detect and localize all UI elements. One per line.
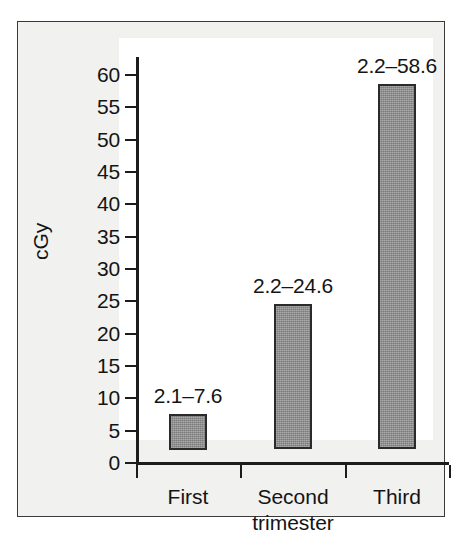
y-axis-title: cGy: [30, 223, 51, 260]
y-axis-tick-label: 0: [72, 452, 120, 473]
y-axis-tick-label: 45: [72, 161, 120, 182]
y-axis-tick-label: 30: [72, 258, 120, 279]
y-axis-tick: [125, 462, 137, 464]
y-axis-tick: [125, 268, 137, 270]
y-axis-tick-label: 5: [72, 420, 120, 441]
x-axis-tick: [136, 465, 138, 478]
y-axis-tick-label: 60: [72, 64, 120, 85]
figure-panel: 051015202530354045505560 cGy 2.1–7.62.2–…: [17, 21, 445, 517]
y-axis-tick-label: 55: [72, 96, 120, 117]
y-axis-tick: [125, 203, 137, 205]
x-axis-line: [136, 462, 449, 465]
y-axis-tick-label: 20: [72, 323, 120, 344]
y-axis-tick: [125, 365, 137, 367]
x-axis-tick: [345, 465, 347, 478]
y-axis-tick: [125, 430, 137, 432]
y-axis-tick-label: 10: [72, 387, 120, 408]
bar-value-label: 2.2–58.6: [337, 55, 457, 76]
y-axis-tick-label: 25: [72, 290, 120, 311]
y-axis-tick-label: 35: [72, 226, 120, 247]
x-axis-category-third: Third: [327, 484, 463, 510]
y-axis-tick: [125, 236, 137, 238]
category-sublabel-text: trimester: [223, 510, 363, 534]
y-axis-tick: [125, 333, 137, 335]
bar-second: [274, 304, 312, 449]
y-axis-tick-label: 40: [72, 193, 120, 214]
y-axis-tick: [125, 74, 137, 76]
y-axis-tick: [125, 171, 137, 173]
y-axis-tick: [125, 139, 137, 141]
figure: 051015202530354045505560 cGy 2.1–7.62.2–…: [0, 0, 463, 534]
category-label-text: Third: [327, 484, 463, 510]
bar-value-label: 2.1–7.6: [128, 385, 248, 406]
x-axis-tick: [449, 465, 451, 478]
bar-third: [378, 84, 416, 449]
x-axis-tick: [240, 465, 242, 478]
bar-value-label: 2.2–24.6: [233, 275, 353, 296]
bar-first: [169, 414, 207, 450]
y-axis-tick-label: 50: [72, 129, 120, 150]
y-axis-tick-label: 15: [72, 355, 120, 376]
y-axis-tick: [125, 106, 137, 108]
y-axis-tick: [125, 300, 137, 302]
